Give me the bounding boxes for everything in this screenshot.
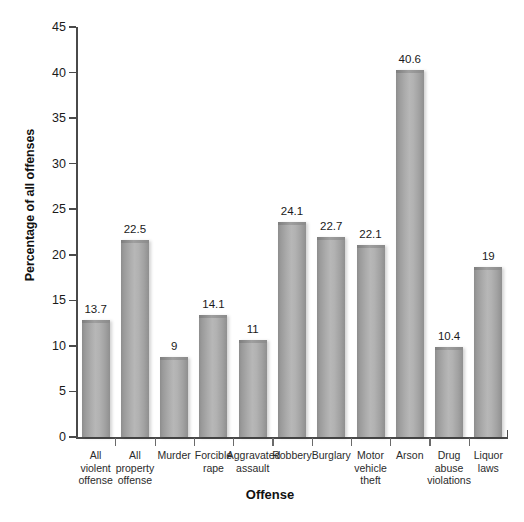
y-axis-tick-label: 5 [18,384,66,398]
x-axis-tick [194,438,195,446]
y-axis-tick-label: 20 [18,248,66,262]
bar [396,70,424,437]
y-axis-tick-label: 15 [18,293,66,307]
bar-top-edge [160,357,188,360]
category-label-line: vehicle [345,462,397,475]
category-label-line: offense [109,474,161,487]
category-label-line: violations [423,474,475,487]
y-axis-tick [69,345,76,347]
x-axis-tick [469,438,470,446]
bar-top-edge [121,240,149,243]
y-axis-tick-label: 45 [18,20,66,34]
bar-value-label: 22.1 [341,228,401,240]
bar-top-edge [357,245,385,248]
bar-top-edge [396,70,424,73]
y-axis-tick [69,72,76,74]
category-label-line: assault [227,462,279,475]
bar-top-edge [435,347,463,350]
bar-value-label: 40.6 [380,53,440,65]
x-axis-tick [272,438,273,446]
y-axis-tick [69,26,76,28]
y-axis-line [76,27,78,438]
category-label-line: laws [462,462,514,475]
bar [82,320,110,437]
bar-top-edge [239,340,267,343]
bar [121,240,149,437]
bar-top-edge [82,320,110,323]
y-axis-tick [69,117,76,119]
y-axis-tick-label: 25 [18,202,66,216]
y-axis-tick-label: 30 [18,157,66,171]
x-axis-tick [351,438,352,446]
bar-value-label: 10.4 [419,330,479,342]
bar-top-edge [199,315,227,318]
y-axis-tick [69,254,76,256]
bar [239,340,267,437]
x-axis-tick [155,438,156,446]
bar [474,267,502,437]
bar [317,237,345,437]
bar [160,357,188,437]
y-axis-tick [69,391,76,393]
bar-value-label: 22.5 [105,223,165,235]
bar-top-edge [474,267,502,270]
x-axis-tick [312,438,313,446]
y-axis-tick-label: 35 [18,111,66,125]
x-axis-tick [429,438,430,446]
y-axis-tick [69,436,76,438]
y-axis-tick [69,208,76,210]
x-axis-line [76,437,508,439]
bar-value-label: 14.1 [183,298,243,310]
category-label-line: property [109,462,161,475]
bar-value-label: 24.1 [262,205,322,217]
y-axis-tick [69,300,76,302]
x-axis-right-cap [507,430,509,438]
x-axis-tick [115,438,116,446]
y-axis-tick-label: 40 [18,66,66,80]
bar-value-label: 13.7 [66,303,126,315]
y-axis-tick [69,163,76,165]
x-axis-title: Offense [150,487,390,502]
bar-value-label: 9 [144,340,204,352]
category-label-line: theft [345,474,397,487]
bar-value-label: 11 [223,323,283,335]
y-axis-tick-label: 0 [18,430,66,444]
x-axis-category-label: Liquorlaws [462,449,514,474]
y-axis-tick-label: 10 [18,339,66,353]
bar [357,245,385,437]
bar [278,222,306,437]
bar-chart: Percentage of all offenses 0510152025303… [0,0,524,522]
category-label-line: Liquor [462,449,514,462]
bar [435,347,463,437]
bar-value-label: 19 [458,250,518,262]
x-axis-tick [390,438,391,446]
x-axis-tick [233,438,234,446]
